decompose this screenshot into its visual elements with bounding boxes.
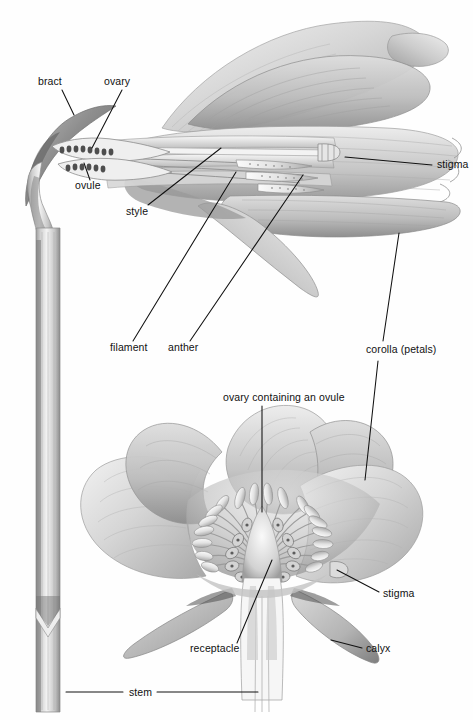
- label-receptacle: receptacle: [190, 643, 239, 654]
- stem-dark-edge: [36, 240, 41, 712]
- leader-corolla-up: [383, 233, 399, 341]
- label-stigma-upper: stigma: [437, 159, 469, 170]
- label-bract: bract: [38, 76, 62, 87]
- label-calyx: calyx: [366, 643, 390, 654]
- label-filament: filament: [110, 342, 148, 353]
- label-anther: anther: [168, 342, 198, 353]
- lower-flower: [81, 405, 423, 712]
- label-style: style: [126, 206, 148, 217]
- botanical-illustration: [0, 0, 473, 720]
- stem-structure: [36, 228, 60, 712]
- flower-anatomy-figure: bract ovary ovule style stigma filament …: [0, 0, 473, 720]
- label-ovary-containing-ovule: ovary containing an ovule: [223, 392, 345, 403]
- label-stigma-lower: stigma: [383, 588, 415, 599]
- label-corolla-petals: corolla (petals): [366, 344, 436, 355]
- leader-bract: [62, 90, 74, 115]
- label-ovule: ovule: [75, 180, 101, 191]
- stigma-upper-structure: [318, 144, 340, 161]
- label-ovary: ovary: [104, 76, 130, 87]
- label-stem: stem: [129, 687, 152, 698]
